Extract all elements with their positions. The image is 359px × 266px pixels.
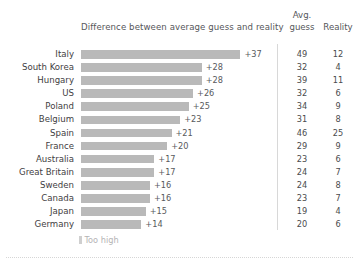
bar	[81, 220, 141, 229]
bar	[81, 168, 154, 177]
table-row: Spain+214625	[0, 127, 359, 140]
bar	[81, 181, 150, 190]
row-label-france: France	[0, 140, 74, 153]
row-label-sweden: Sweden	[0, 179, 74, 192]
reality-value: 11	[319, 74, 357, 87]
reality-value: 6	[319, 87, 357, 100]
reality-value: 7	[319, 166, 357, 179]
bar-wrapper	[81, 116, 180, 125]
bar-value-label: +28	[206, 61, 223, 74]
reality-value: 6	[319, 218, 357, 231]
bar-wrapper	[81, 168, 154, 177]
bar-wrapper	[81, 155, 154, 164]
row-label-great-britain: Great Britain	[0, 166, 74, 179]
bar	[81, 116, 180, 125]
bar-value-label: +25	[193, 100, 210, 113]
bar-wrapper	[81, 129, 172, 138]
table-row: Poland+25349	[0, 100, 359, 113]
footer-divider	[6, 257, 353, 259]
table-row: Great Britain+17247	[0, 166, 359, 179]
table-row: Italy+374912	[0, 48, 359, 61]
bar-value-label: +16	[154, 179, 171, 192]
table-row: Belgium+23318	[0, 113, 359, 126]
reality-value: 4	[319, 205, 357, 218]
legend-label-too-high: Too high	[85, 235, 119, 245]
row-label-australia: Australia	[0, 153, 74, 166]
avg-guess-value: 32	[285, 87, 319, 100]
avg-guess-value: 39	[285, 74, 319, 87]
bar	[81, 89, 193, 98]
reality-value: 25	[319, 127, 357, 140]
table-row: US+26326	[0, 87, 359, 100]
bar-wrapper	[81, 89, 193, 98]
row-label-japan: Japan	[0, 205, 74, 218]
bar	[81, 76, 202, 85]
avg-guess-value: 20	[285, 218, 319, 231]
table-row: France+20299	[0, 140, 359, 153]
bar-value-label: +17	[158, 153, 175, 166]
avg-guess-value: 24	[285, 166, 319, 179]
avg-guess-value: 19	[285, 205, 319, 218]
reality-value: 9	[319, 140, 357, 153]
avg-guess-value: 29	[285, 140, 319, 153]
avg-guess-value: 46	[285, 127, 319, 140]
bar-value-label: +37	[244, 48, 261, 61]
bar	[81, 155, 154, 164]
reality-value: 4	[319, 61, 357, 74]
table-row: Germany+14206	[0, 218, 359, 231]
bar-value-label: +26	[197, 87, 214, 100]
avg-guess-value: 23	[285, 153, 319, 166]
bar-value-label: +14	[145, 218, 162, 231]
row-label-italy: Italy	[0, 48, 74, 61]
avg-guess-value: 24	[285, 179, 319, 192]
reality-column-header: Reality	[319, 22, 357, 32]
avg-guess-header-line2: guess	[285, 22, 319, 32]
bar	[81, 63, 202, 72]
bar-wrapper	[81, 76, 202, 85]
avg-guess-value: 34	[285, 100, 319, 113]
bar-value-label: +23	[184, 113, 201, 126]
table-row: Australia+17236	[0, 153, 359, 166]
bar	[81, 129, 172, 138]
bar-value-label: +17	[158, 166, 175, 179]
table-row: Japan+15194	[0, 205, 359, 218]
row-label-south-korea: South Korea	[0, 61, 74, 74]
legend-swatch-too-high	[79, 236, 82, 244]
bar-wrapper	[81, 50, 240, 59]
bar-value-label: +20	[171, 140, 188, 153]
bar-wrapper	[81, 194, 150, 203]
avg-guess-value: 49	[285, 48, 319, 61]
bar	[81, 142, 167, 151]
avg-guess-value: 31	[285, 113, 319, 126]
avg-guess-value: 23	[285, 192, 319, 205]
bar-wrapper	[81, 63, 202, 72]
table-row: Sweden+16248	[0, 179, 359, 192]
row-label-us: US	[0, 87, 74, 100]
bar	[81, 50, 240, 59]
reality-value: 8	[319, 179, 357, 192]
bar-wrapper	[81, 220, 141, 229]
table-row: South Korea+28324	[0, 61, 359, 74]
bar-wrapper	[81, 102, 189, 111]
chart-container: Difference between average guess and rea…	[0, 0, 359, 266]
avg-guess-value: 32	[285, 61, 319, 74]
bar-wrapper	[81, 181, 150, 190]
bar	[81, 102, 189, 111]
bar-value-label: +28	[206, 74, 223, 87]
bar-value-label: +16	[154, 192, 171, 205]
legend: Too high	[79, 235, 119, 245]
bar	[81, 194, 150, 203]
row-label-canada: Canada	[0, 192, 74, 205]
row-label-poland: Poland	[0, 100, 74, 113]
row-label-spain: Spain	[0, 127, 74, 140]
reality-value: 8	[319, 113, 357, 126]
reality-value: 12	[319, 48, 357, 61]
bar-wrapper	[81, 207, 146, 216]
bar-value-label: +15	[150, 205, 167, 218]
table-row: Hungary+283911	[0, 74, 359, 87]
reality-value: 6	[319, 153, 357, 166]
reality-value: 9	[319, 100, 357, 113]
chart-rows: Italy+374912South Korea+28324Hungary+283…	[0, 48, 359, 231]
reality-value: 7	[319, 192, 357, 205]
row-label-belgium: Belgium	[0, 113, 74, 126]
